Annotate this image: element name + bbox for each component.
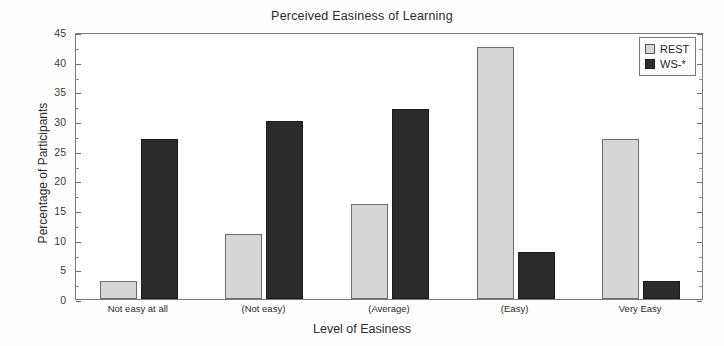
bars-layer [76, 34, 702, 299]
y-axis-minor-tick [699, 108, 702, 109]
y-axis-tick [697, 212, 702, 213]
y-axis-tick [697, 182, 702, 183]
y-axis-tick [76, 123, 81, 124]
bar-rest-2[interactable] [225, 234, 262, 299]
y-axis-minor-tick [76, 257, 79, 258]
bar-group [453, 34, 579, 299]
y-axis-minor-tick [699, 227, 702, 228]
y-axis-tick [76, 64, 81, 65]
plot-area [75, 33, 703, 300]
y-axis-minor-tick [76, 108, 79, 109]
x-tick-label-3: (Average) [368, 303, 410, 314]
y-tick-label: 10 [26, 235, 66, 247]
x-tick-label-2: (Not easy) [241, 303, 285, 314]
bar-group [202, 34, 328, 299]
y-axis-minor-tick [76, 227, 79, 228]
legend-label: WS-* [660, 58, 686, 70]
bar-rest-4[interactable] [477, 47, 514, 299]
bar-ws-3[interactable] [392, 109, 429, 299]
bar-group [327, 34, 453, 299]
legend-label: REST [660, 43, 689, 55]
bar-ws-2[interactable] [266, 121, 303, 299]
y-axis-tick [697, 153, 702, 154]
y-axis-tick [76, 182, 81, 183]
x-tick-label-4: (Easy) [501, 303, 528, 314]
y-axis-tick [76, 153, 81, 154]
y-axis-tick [697, 64, 702, 65]
y-axis-tick [76, 93, 81, 94]
y-axis-tick [76, 34, 81, 35]
legend-swatch-icon [645, 44, 655, 54]
y-axis-minor-tick [76, 49, 79, 50]
y-tick-label: 20 [26, 175, 66, 187]
bar-ws-5[interactable] [643, 281, 680, 299]
y-axis-minor-tick [699, 168, 702, 169]
y-axis-minor-tick [699, 286, 702, 287]
y-axis-tick [697, 301, 702, 302]
bar-rest-1[interactable] [100, 281, 137, 299]
y-axis-tick [76, 301, 81, 302]
y-tick-label: 15 [26, 205, 66, 217]
y-axis-tick [697, 242, 702, 243]
y-axis-minor-tick [699, 138, 702, 139]
bar-rest-3[interactable] [351, 204, 388, 299]
chart-legend: RESTWS-* [639, 37, 696, 76]
legend-swatch-icon [645, 59, 655, 69]
y-axis-tick [697, 93, 702, 94]
chart-title: Perceived Easiness of Learning [0, 9, 724, 23]
y-tick-label: 25 [26, 146, 66, 158]
y-axis-tick [697, 123, 702, 124]
y-tick-label: 5 [26, 264, 66, 276]
bar-ws-1[interactable] [141, 139, 178, 299]
x-tick-label-5: Very Easy [619, 303, 662, 314]
y-tick-label: 30 [26, 116, 66, 128]
x-tick-label-1: Not easy at all [108, 303, 168, 314]
y-axis-minor-tick [76, 168, 79, 169]
y-axis-minor-tick [76, 138, 79, 139]
x-axis-title: Level of Easiness [0, 322, 724, 336]
y-axis-minor-tick [699, 79, 702, 80]
y-axis-minor-tick [76, 197, 79, 198]
legend-item-rest[interactable]: REST [645, 41, 689, 56]
y-axis-tick [697, 34, 702, 35]
y-tick-label: 35 [26, 86, 66, 98]
bar-ws-4[interactable] [518, 252, 555, 299]
bar-group [76, 34, 202, 299]
chart-figure: Perceived Easiness of Learning Percentag… [0, 0, 724, 346]
y-axis-minor-tick [76, 79, 79, 80]
y-axis-minor-tick [699, 197, 702, 198]
bar-rest-5[interactable] [602, 139, 639, 299]
y-axis-tick [76, 271, 81, 272]
y-axis-tick [697, 271, 702, 272]
y-axis-tick [76, 242, 81, 243]
y-axis-tick [76, 212, 81, 213]
y-axis-minor-tick [76, 286, 79, 287]
legend-item-ws[interactable]: WS-* [645, 56, 689, 71]
y-axis-minor-tick [699, 49, 702, 50]
y-tick-label: 40 [26, 57, 66, 69]
y-axis-minor-tick [699, 257, 702, 258]
y-tick-label: 45 [26, 27, 66, 39]
y-tick-label: 0 [26, 294, 66, 306]
